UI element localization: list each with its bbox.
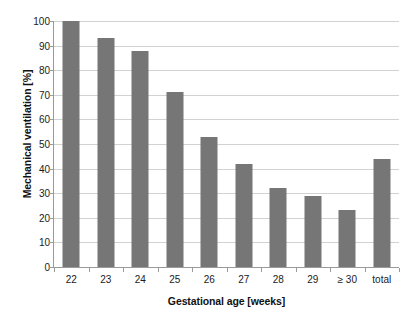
x-axis-tick-label: 27 (238, 274, 249, 285)
bar-slot (330, 21, 365, 267)
x-axis-tickmark (54, 268, 55, 272)
bar-slot (227, 21, 262, 267)
bar (270, 188, 287, 267)
x-axis-tick-label: 28 (273, 274, 284, 285)
x-axis-tickmarks (54, 268, 399, 273)
x-axis-tickmark (158, 268, 159, 272)
plot-area (54, 21, 399, 267)
bar-slot (261, 21, 296, 267)
x-axis-tick-label: total (372, 274, 391, 285)
bar (63, 21, 80, 267)
bar (201, 137, 218, 267)
bar-slot (123, 21, 158, 267)
bar-slot (89, 21, 124, 267)
bar (235, 164, 252, 267)
bar-slot (54, 21, 89, 267)
bar (97, 38, 114, 267)
x-axis-tickmark (399, 268, 400, 272)
bar-slot (296, 21, 331, 267)
x-axis-tickmark (192, 268, 193, 272)
x-axis-tickmark (365, 268, 366, 272)
bar (373, 159, 390, 267)
x-axis-tick-label: ≥ 30 (338, 274, 357, 285)
bar (339, 210, 356, 267)
x-axis-tick-label: 24 (135, 274, 146, 285)
x-axis-title: Gestational age [weeks] (54, 295, 399, 307)
bar (132, 51, 149, 267)
x-axis-tick-label: 25 (169, 274, 180, 285)
bar-slot (365, 21, 400, 267)
x-axis-tickmark (261, 268, 262, 272)
x-axis-tickmark (89, 268, 90, 272)
bar-slot (158, 21, 193, 267)
bar-slot (192, 21, 227, 267)
x-axis-tickmark (330, 268, 331, 272)
x-axis-tick-labels: 2223242526272829≥ 30total (54, 274, 399, 290)
x-axis-tick-label: 29 (307, 274, 318, 285)
bar-chart: Mechanical ventilation [%] 0102030405060… (0, 0, 402, 321)
bar (304, 196, 321, 267)
y-axis-tick-labels: 0102030405060708090100 (24, 21, 50, 267)
bar (166, 92, 183, 267)
x-axis-tick-label: 23 (100, 274, 111, 285)
x-axis-tickmark (123, 268, 124, 272)
x-axis-tick-label: 26 (204, 274, 215, 285)
x-axis-tick-label: 22 (66, 274, 77, 285)
x-axis-tickmark (296, 268, 297, 272)
x-axis-tickmark (227, 268, 228, 272)
bar-series (54, 21, 399, 267)
